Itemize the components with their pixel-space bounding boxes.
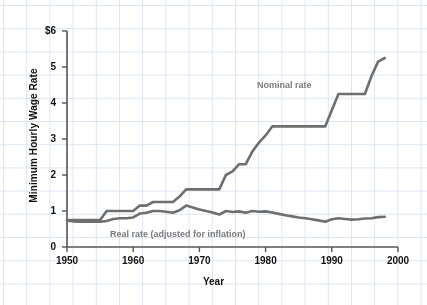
x-tick-label: 1980 (244, 255, 288, 266)
series-label-real: Real rate (adjusted for inflation) (110, 229, 246, 239)
series-label-nominal: Nominal rate (257, 80, 312, 90)
x-tick-label: 1950 (45, 255, 89, 266)
y-tick-label: 4 (22, 97, 56, 108)
axis-lines (67, 31, 398, 247)
series-line-nominal (67, 58, 385, 220)
series-line-real (67, 206, 385, 222)
x-tick-label: 2000 (376, 255, 420, 266)
y-tick-label: 3 (22, 133, 56, 144)
x-axis-title: Year (0, 276, 427, 287)
y-tick-label: 5 (22, 61, 56, 72)
y-tick-label: 0 (22, 241, 56, 252)
y-tick-label: 1 (22, 205, 56, 216)
x-tick-label: 1960 (111, 255, 155, 266)
x-tick-label: 1990 (310, 255, 354, 266)
chart-container: Minimum Hourly Wage Rate Year 012345$6 1… (0, 0, 427, 305)
x-tick-label: 1970 (177, 255, 221, 266)
y-tick-label: 2 (22, 169, 56, 180)
y-tick-label: $6 (22, 25, 56, 36)
